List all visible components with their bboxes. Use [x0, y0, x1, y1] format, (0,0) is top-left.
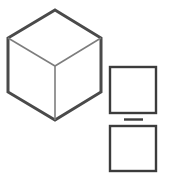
diagram-canvas	[0, 0, 172, 179]
square-top	[110, 67, 156, 113]
square-bottom	[110, 126, 156, 171]
diagram-svg	[0, 0, 172, 179]
